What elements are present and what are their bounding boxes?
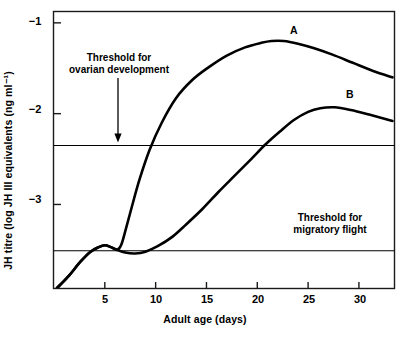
threshold-lines	[54, 145, 395, 250]
plot-area	[0, 0, 410, 341]
arrow-head	[114, 133, 121, 142]
axis-ticks	[54, 23, 359, 288]
chart-figure: JH titre (log JH III equivalents (ng ml⁻…	[0, 0, 410, 341]
curve-b	[57, 107, 392, 288]
plot-border	[54, 12, 395, 289]
ovarian-threshold-arrow	[114, 78, 121, 142]
plot-frame	[54, 12, 395, 289]
